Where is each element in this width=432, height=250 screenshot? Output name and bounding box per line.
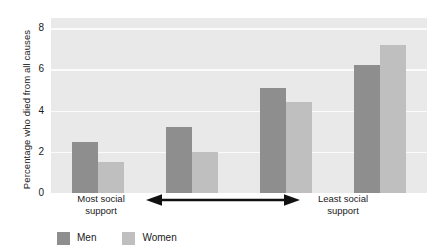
- bar-women-group-3: [286, 102, 312, 193]
- legend-swatch-women-icon: [122, 232, 135, 245]
- legend-item-men: Men: [57, 232, 96, 245]
- x-axis-left-label-line1: Most social: [77, 193, 125, 204]
- gridline-8: [51, 28, 427, 30]
- bar-women-group-2: [192, 152, 218, 193]
- legend-item-women: Women: [122, 232, 176, 245]
- x-axis-annotation: Most social support Least social support: [0, 193, 432, 225]
- x-axis-right-label-line2: support: [327, 205, 359, 216]
- bar-men-group-3: [260, 88, 286, 193]
- legend-label-men: Men: [77, 233, 96, 243]
- legend-swatch-men-icon: [57, 232, 70, 245]
- bar-men-group-2: [166, 127, 192, 193]
- plot-area: [51, 18, 427, 193]
- bar-men-group-1: [72, 142, 98, 193]
- legend-label-women: Women: [142, 233, 176, 243]
- x-axis-left-label-line2: support: [85, 205, 117, 216]
- bar-women-group-1: [98, 162, 124, 193]
- chart-legend: MenWomen: [57, 230, 203, 246]
- y-axis-tick-6: 6: [22, 64, 44, 74]
- y-axis-tick-2: 2: [22, 147, 44, 157]
- x-axis-right-label: Least social support: [300, 193, 386, 216]
- y-axis-tick-8: 8: [22, 23, 44, 33]
- x-axis-left-label: Most social support: [58, 193, 144, 216]
- bar-men-group-4: [354, 65, 380, 193]
- y-axis-tick-4: 4: [22, 106, 44, 116]
- bar-women-group-4: [380, 45, 406, 193]
- social-support-gradient-arrow-icon: [146, 193, 300, 207]
- bar-chart-figure: Percentage who died from all causes 0246…: [0, 0, 432, 250]
- x-axis-right-label-line1: Least social: [318, 193, 368, 204]
